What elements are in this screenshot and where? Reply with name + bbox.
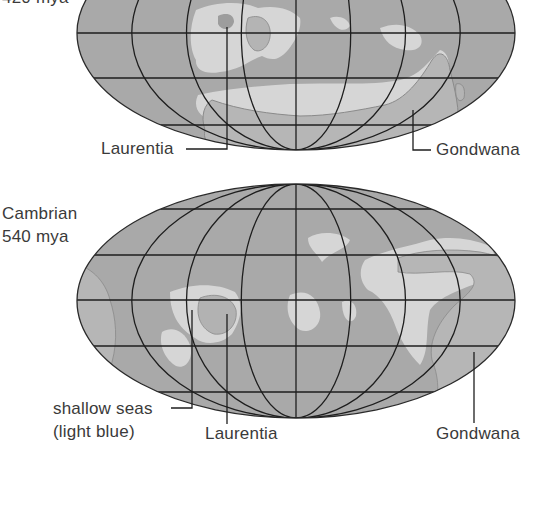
upper-laurentia-label: Laurentia — [101, 139, 174, 158]
lower-laurentia-label: Laurentia — [205, 424, 278, 443]
baltica-land — [246, 17, 270, 51]
lower-age-label: 540 mya — [2, 227, 69, 246]
upper-age-label: 420 mya — [2, 0, 69, 7]
island-land — [456, 84, 465, 101]
upper-map — [70, 0, 530, 160]
lower-period-label: Cambrian — [2, 204, 77, 223]
lower-map — [70, 180, 530, 425]
upper-gondwana-label: Gondwana — [436, 140, 520, 159]
lower-gondwana-label: Gondwana — [436, 424, 520, 443]
shallow-seas-color-note: (light blue) — [53, 422, 135, 441]
shallow-seas-label: shallow seas — [53, 399, 153, 418]
